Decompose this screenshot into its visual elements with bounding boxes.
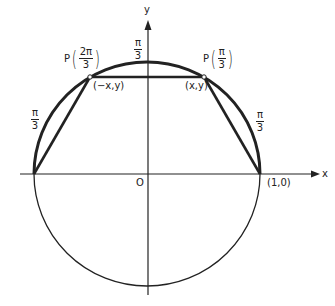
upper-semicircle: [34, 62, 260, 174]
chord-right: [204, 77, 260, 174]
chord-left: [34, 77, 90, 174]
arc-label-right: π 3: [256, 110, 264, 133]
point-p-left: [88, 75, 92, 79]
x-axis-arrow-icon: [311, 171, 320, 178]
point-right-coord-label: (x,y): [185, 81, 208, 91]
origin-label: O: [136, 178, 144, 188]
point-left-label: P ( 2π 3 ): [64, 47, 102, 70]
point-p-right: [202, 75, 206, 79]
lower-semicircle: [34, 174, 260, 286]
y-axis-label: y: [144, 5, 150, 15]
arc-label-left: π 3: [31, 108, 39, 131]
y-axis-arrow-icon: [145, 20, 152, 30]
point-right-label: P ( π 3 ): [203, 47, 234, 70]
arc-label-top: π 3: [134, 38, 142, 61]
point-left-coord-label: (−x,y): [93, 81, 124, 91]
unit-circle-diagram: [0, 0, 335, 306]
x-axis-label: x: [322, 169, 328, 179]
unit-point-label: (1,0): [267, 178, 291, 188]
